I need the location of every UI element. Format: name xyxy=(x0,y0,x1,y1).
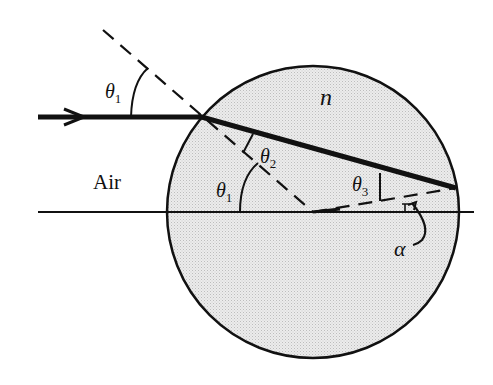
angle-arc-theta1-outside xyxy=(131,68,148,117)
theta1-outside-label: θ1 xyxy=(105,80,121,106)
n-label: n xyxy=(320,84,332,110)
refraction-diagram: Air n θ1 θ1 θ2 θ3 α xyxy=(0,0,493,385)
air-label: Air xyxy=(93,170,121,194)
alpha-label: α xyxy=(394,236,406,261)
